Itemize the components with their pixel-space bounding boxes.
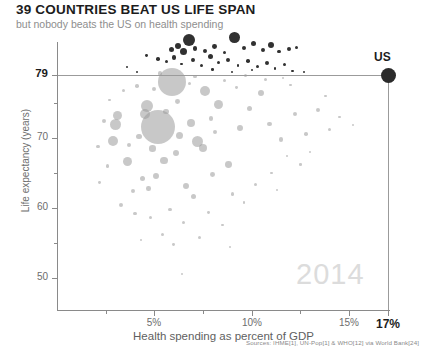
bubble-data-point[interactable] (291, 70, 293, 72)
bubble-data-point[interactable] (286, 155, 288, 157)
bubble-data-point[interactable] (198, 236, 201, 239)
bubble-data-point[interactable] (209, 116, 213, 120)
bubble-data-point[interactable] (161, 233, 164, 236)
bubble-data-point[interactable] (208, 54, 213, 59)
bubble-data-point[interactable] (293, 112, 297, 116)
bubble-data-point[interactable] (176, 132, 183, 139)
bubble-data-point[interactable] (231, 71, 233, 73)
bubble-data-point[interactable] (126, 66, 128, 68)
bubble-data-point[interactable] (276, 189, 278, 191)
bubble-data-point[interactable] (229, 246, 231, 248)
bubble-data-point[interactable] (282, 77, 285, 80)
bubble-data-point[interactable] (267, 122, 272, 127)
bubble-data-point[interactable] (182, 221, 185, 224)
bubble-data-point[interactable] (352, 124, 354, 126)
bubble-data-point[interactable] (140, 239, 142, 241)
bubble-data-point[interactable] (136, 71, 138, 73)
bubble-data-point[interactable] (235, 86, 238, 89)
bubble-data-point[interactable] (106, 164, 109, 167)
bubble-data-point[interactable] (133, 212, 137, 216)
bubble-data-point[interactable] (246, 59, 250, 63)
bubble-data-point[interactable] (153, 173, 159, 179)
bubble-data-point[interactable] (98, 181, 101, 184)
bubble-data-point[interactable] (247, 106, 252, 111)
bubble-data-point[interactable] (309, 151, 311, 153)
us-data-point[interactable] (381, 68, 396, 83)
bubble-data-point[interactable] (226, 58, 230, 62)
bubble-data-point[interactable] (96, 145, 100, 149)
bubble-data-point[interactable] (256, 65, 259, 68)
bubble-data-point[interactable] (277, 50, 280, 53)
bubble-data-point[interactable] (316, 108, 320, 112)
bubble-data-point[interactable] (193, 46, 197, 50)
bubble-data-point[interactable] (108, 136, 118, 146)
bubble-data-point[interactable] (324, 95, 327, 98)
bubble-data-point[interactable] (187, 119, 195, 127)
bubble-data-point[interactable] (338, 116, 340, 118)
bubble-data-point[interactable] (136, 134, 142, 140)
bubble-data-point[interactable] (261, 48, 265, 52)
bubble-data-point[interactable] (242, 46, 246, 50)
bubble-data-point[interactable] (223, 51, 227, 55)
bubble-data-point[interactable] (231, 192, 234, 195)
bubble-data-point[interactable] (183, 34, 195, 46)
bubble-data-point[interactable] (251, 69, 253, 71)
bubble-data-point[interactable] (237, 64, 240, 67)
bubble-data-point[interactable] (191, 58, 195, 62)
bubble-data-point[interactable] (135, 84, 139, 88)
bubble-data-point[interactable] (165, 60, 168, 63)
bubble-data-point[interactable] (168, 208, 171, 211)
bubble-data-point[interactable] (274, 67, 277, 70)
bubble-data-point[interactable] (270, 172, 273, 175)
bubble-data-point[interactable] (221, 224, 224, 227)
bubble-data-point[interactable] (145, 54, 148, 57)
bubble-data-point[interactable] (152, 87, 156, 91)
bubble-data-point[interactable] (119, 203, 123, 207)
bubble-data-point[interactable] (175, 99, 180, 104)
bubble-data-point[interactable] (283, 63, 286, 66)
bubble-data-point[interactable] (163, 109, 169, 115)
bubble-data-point[interactable] (212, 44, 217, 49)
bubble-data-point[interactable] (295, 46, 298, 49)
bubble-data-point[interactable] (258, 90, 264, 96)
bubble-data-point[interactable] (175, 43, 181, 49)
bubble-data-point[interactable] (158, 68, 186, 96)
bubble-data-point[interactable] (328, 128, 331, 131)
bubble-data-point[interactable] (303, 71, 305, 73)
bubble-data-point[interactable] (122, 89, 125, 92)
bubble-data-point[interactable] (146, 186, 150, 190)
bubble-data-point[interactable] (191, 194, 196, 199)
bubble-data-point[interactable] (264, 78, 267, 81)
bubble-data-point[interactable] (200, 64, 203, 67)
bubble-data-point[interactable] (207, 211, 210, 214)
bubble-data-point[interactable] (217, 61, 220, 64)
bubble-data-point[interactable] (123, 157, 132, 166)
bubble-data-point[interactable] (223, 79, 226, 82)
bubble-data-point[interactable] (108, 99, 111, 102)
bubble-data-point[interactable] (110, 119, 121, 130)
bubble-data-point[interactable] (140, 109, 150, 119)
bubble-data-point[interactable] (188, 82, 191, 85)
bubble-data-point[interactable] (169, 47, 174, 52)
bubble-data-point[interactable] (127, 143, 132, 148)
bubble-data-point[interactable] (200, 86, 210, 96)
bubble-data-point[interactable] (210, 172, 215, 177)
bubble-data-point[interactable] (172, 243, 175, 246)
bubble-data-point[interactable] (268, 42, 274, 48)
bubble-data-point[interactable] (214, 100, 223, 109)
bubble-data-point[interactable] (131, 189, 135, 193)
bubble-data-point[interactable] (251, 41, 257, 47)
bubble-data-point[interactable] (199, 144, 207, 152)
bubble-data-point[interactable] (237, 125, 243, 131)
bubble-data-point[interactable] (229, 32, 240, 43)
bubble-data-point[interactable] (203, 49, 207, 53)
bubble-data-point[interactable] (289, 84, 291, 86)
bubble-data-point[interactable] (140, 176, 145, 181)
bubble-data-point[interactable] (243, 201, 246, 204)
bubble-data-point[interactable] (149, 145, 155, 151)
bubble-data-point[interactable] (287, 47, 291, 51)
bubble-data-point[interactable] (102, 119, 106, 123)
bubble-data-point[interactable] (180, 48, 187, 55)
bubble-data-point[interactable] (173, 150, 179, 156)
bubble-data-point[interactable] (299, 163, 302, 166)
